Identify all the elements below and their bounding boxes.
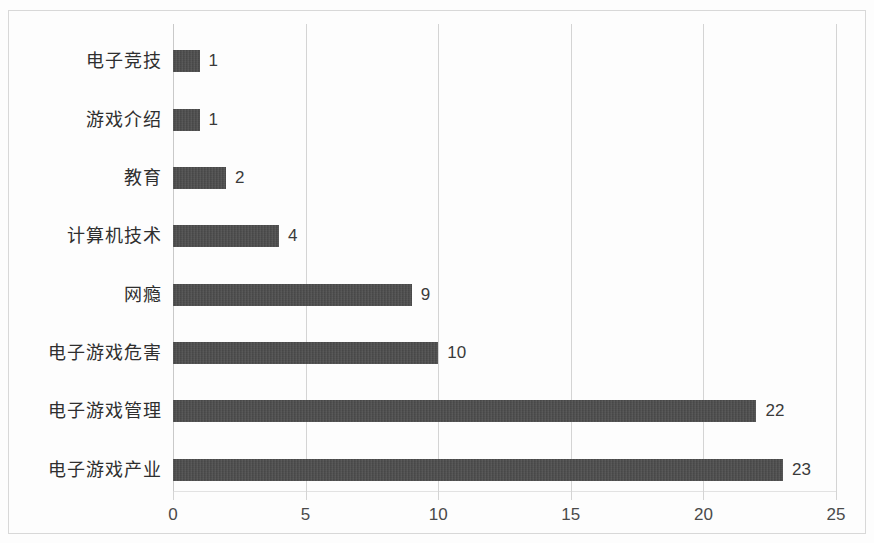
bar-value-label: 23 — [792, 459, 811, 481]
category-label: 网瘾 — [124, 284, 162, 306]
bar-row: 1 — [173, 109, 836, 131]
axis-tick — [306, 491, 307, 500]
category-label: 游戏介绍 — [86, 109, 162, 131]
category-axis: 电子竞技游戏介绍教育计算机技术网瘾电子游戏危害电子游戏管理电子游戏产业 — [0, 24, 162, 491]
bar-value-label: 10 — [447, 342, 466, 364]
bar-row: 22 — [173, 400, 836, 422]
bar — [173, 284, 412, 306]
bar-row: 1 — [173, 50, 836, 72]
category-label: 电子游戏产业 — [48, 459, 162, 481]
axis-tick — [836, 491, 837, 500]
bar-value-label: 9 — [421, 284, 430, 306]
category-label: 计算机技术 — [67, 225, 162, 247]
axis-tick — [571, 491, 572, 500]
bar-value-label: 4 — [288, 225, 297, 247]
bar-row: 2 — [173, 167, 836, 189]
bar — [173, 109, 200, 131]
axis-tick — [703, 491, 704, 500]
bar-chart: 电子竞技游戏介绍教育计算机技术网瘾电子游戏危害电子游戏管理电子游戏产业 1124… — [0, 0, 874, 543]
bar — [173, 342, 438, 364]
bar-value-label: 1 — [209, 109, 218, 131]
bar-row: 23 — [173, 459, 836, 481]
x-axis-tick-label: 25 — [827, 505, 846, 525]
category-label: 电子游戏危害 — [48, 342, 162, 364]
axis-tick — [173, 491, 174, 500]
bar — [173, 459, 783, 481]
gridline — [836, 24, 837, 491]
bar-value-label: 1 — [209, 50, 218, 72]
bar-row: 4 — [173, 225, 836, 247]
bar — [173, 167, 226, 189]
category-label: 教育 — [124, 167, 162, 189]
bar-value-label: 2 — [235, 167, 244, 189]
bar-row: 10 — [173, 342, 836, 364]
bar — [173, 400, 756, 422]
plot-bottom-rule — [173, 491, 836, 492]
bar — [173, 50, 200, 72]
bar-row: 9 — [173, 284, 836, 306]
axis-tick — [438, 491, 439, 500]
bar-value-label: 22 — [765, 400, 784, 422]
x-axis-tick-label: 0 — [168, 505, 177, 525]
x-axis-tick-label: 5 — [301, 505, 310, 525]
bar — [173, 225, 279, 247]
plot-area: 11249102223 — [173, 24, 836, 491]
category-label: 电子游戏管理 — [48, 400, 162, 422]
x-axis-tick-label: 10 — [429, 505, 448, 525]
x-axis-tick-label: 15 — [561, 505, 580, 525]
category-label: 电子竞技 — [86, 50, 162, 72]
x-axis-tick-label: 20 — [694, 505, 713, 525]
